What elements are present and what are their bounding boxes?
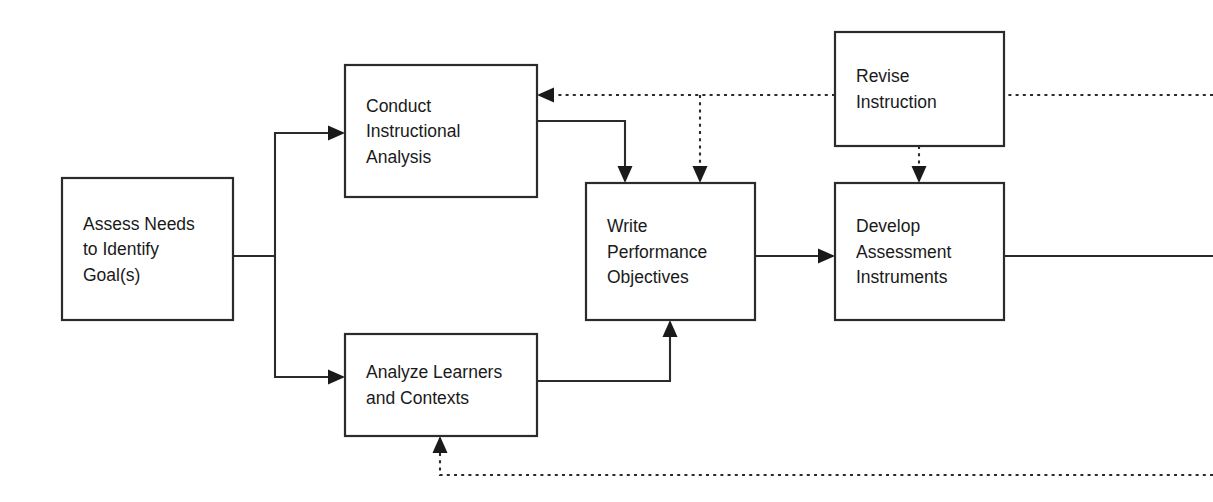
flowchart-canvas: Assess Needsto IdentifyGoal(s)ConductIns…	[0, 0, 1213, 502]
node-label-write-performance-objectives: Performance	[607, 242, 707, 262]
node-label-conduct-instructional-analysis: Analysis	[366, 147, 431, 167]
arrowhead-ah-assess-to-learners	[328, 370, 345, 385]
arrowhead-ah-analysis-to-objectives	[618, 166, 633, 183]
arrowhead-ah-learners-to-objectives	[663, 320, 678, 337]
node-revise-instruction[interactable]: ReviseInstruction	[835, 32, 1004, 146]
arrowhead-ah-objectives-to-assessment	[818, 249, 835, 264]
node-label-develop-assessment-instruments: Instruments	[856, 267, 948, 287]
instructional-design-flowchart: Assess Needsto IdentifyGoal(s)ConductIns…	[0, 0, 1213, 502]
node-label-write-performance-objectives: Objectives	[607, 267, 689, 287]
connector-assess-to-analysis	[233, 133, 333, 256]
connector-analysis-to-objectives	[537, 121, 625, 171]
arrowhead-ah-assess-to-analysis	[328, 126, 345, 141]
arrowhead-ah-bottom-to-learners	[433, 436, 448, 453]
node-label-assess-needs: Assess Needs	[83, 214, 195, 234]
node-label-revise-instruction: Revise	[856, 66, 910, 86]
connector-assess-to-learners	[275, 256, 333, 377]
node-assess-needs[interactable]: Assess Needsto IdentifyGoal(s)	[62, 178, 233, 320]
node-label-develop-assessment-instruments: Develop	[856, 216, 920, 236]
node-label-conduct-instructional-analysis: Instructional	[366, 121, 460, 141]
node-box-revise-instruction	[835, 32, 1004, 146]
nodes-group: Assess Needsto IdentifyGoal(s)ConductIns…	[62, 32, 1004, 436]
node-write-performance-objectives[interactable]: WritePerformanceObjectives	[586, 183, 755, 320]
node-label-assess-needs: Goal(s)	[83, 265, 140, 285]
arrowhead-ah-revise-to-assessment	[912, 166, 927, 183]
arrowhead-ah-revise-to-analysis	[537, 88, 554, 103]
connector-learners-to-objectives	[537, 332, 670, 381]
node-label-analyze-learners-and-contexts: and Contexts	[366, 388, 469, 408]
node-label-write-performance-objectives: Write	[607, 216, 648, 236]
node-develop-assessment-instruments[interactable]: DevelopAssessmentInstruments	[835, 183, 1004, 320]
node-label-develop-assessment-instruments: Assessment	[856, 242, 951, 262]
node-label-revise-instruction: Instruction	[856, 92, 937, 112]
arrowhead-ah-revise-to-objectives	[693, 166, 708, 183]
node-label-assess-needs: to Identify	[83, 239, 159, 259]
node-analyze-learners-and-contexts[interactable]: Analyze Learnersand Contexts	[345, 334, 537, 436]
node-label-conduct-instructional-analysis: Conduct	[366, 96, 431, 116]
connector-bottom-feedback-to-learners	[440, 448, 1213, 475]
node-box-analyze-learners-and-contexts	[345, 334, 537, 436]
node-label-analyze-learners-and-contexts: Analyze Learners	[366, 362, 502, 382]
node-conduct-instructional-analysis[interactable]: ConductInstructionalAnalysis	[345, 65, 537, 197]
